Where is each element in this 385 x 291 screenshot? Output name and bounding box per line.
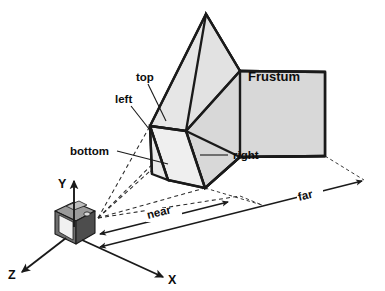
top-label: top <box>136 71 154 83</box>
right-label: right <box>233 149 259 161</box>
left-label: left <box>115 93 132 105</box>
frustum-illustration: Frustum top left bottom right near far <box>0 0 385 291</box>
z-axis-label: Z <box>8 268 16 282</box>
x-axis-label: X <box>168 273 177 287</box>
frustum-diagram: Frustum top left bottom right near far <box>0 0 385 291</box>
bottom-label: bottom <box>70 145 109 157</box>
y-axis-label: Y <box>58 177 67 191</box>
frustum-label: Frustum <box>248 69 300 84</box>
camera-shutter-button <box>84 212 90 216</box>
